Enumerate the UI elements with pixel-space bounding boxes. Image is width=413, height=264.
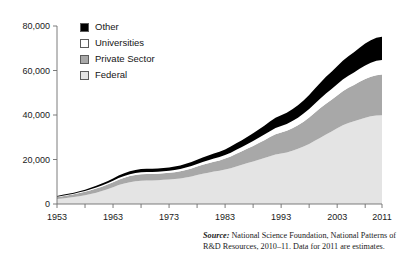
x-tick-label-1973: 1973 bbox=[159, 212, 179, 222]
y-tick-label-80000: 80,000 bbox=[22, 21, 50, 31]
x-tick-label-1963: 1963 bbox=[103, 212, 123, 222]
legend-label-other: Other bbox=[95, 22, 119, 32]
legend-label-private-sector: Private Sector bbox=[95, 54, 155, 64]
y-tick-label-40000: 40,000 bbox=[22, 110, 50, 120]
x-tick-label-2003: 2003 bbox=[327, 212, 347, 222]
y-tick-label-0: 0 bbox=[45, 199, 50, 209]
source-note: Source: National Science Foundation, Nat… bbox=[203, 230, 408, 252]
x-tick-label-2011: 2011 bbox=[372, 212, 391, 222]
legend-label-federal: Federal bbox=[95, 70, 127, 80]
chart-legend: Other Universities Private Sector Federa… bbox=[80, 20, 190, 84]
source-label: Source: bbox=[203, 231, 229, 240]
source-text: National Science Foundation, National Pa… bbox=[203, 231, 396, 251]
legend-item-private-sector: Private Sector bbox=[80, 52, 190, 66]
legend-item-universities: Universities bbox=[80, 36, 190, 50]
legend-item-other: Other bbox=[80, 20, 190, 34]
y-tick-label-60000: 60,000 bbox=[22, 66, 50, 76]
legend-swatch-federal bbox=[80, 71, 89, 80]
x-tick-label-1953: 1953 bbox=[47, 212, 67, 222]
y-tick-label-20000: 20,000 bbox=[22, 155, 50, 165]
legend-swatch-other bbox=[80, 23, 89, 32]
figure-stacked-area-chart: 020,00040,00060,00080,000195319631973198… bbox=[0, 0, 413, 264]
x-tick-label-1993: 1993 bbox=[271, 212, 291, 222]
x-tick-label-1983: 1983 bbox=[215, 212, 235, 222]
legend-swatch-private-sector bbox=[80, 55, 89, 64]
legend-item-federal: Federal bbox=[80, 68, 190, 82]
legend-swatch-universities bbox=[80, 39, 89, 48]
legend-label-universities: Universities bbox=[95, 38, 144, 48]
chart-canvas: 020,00040,00060,00080,000195319631973198… bbox=[0, 0, 413, 264]
